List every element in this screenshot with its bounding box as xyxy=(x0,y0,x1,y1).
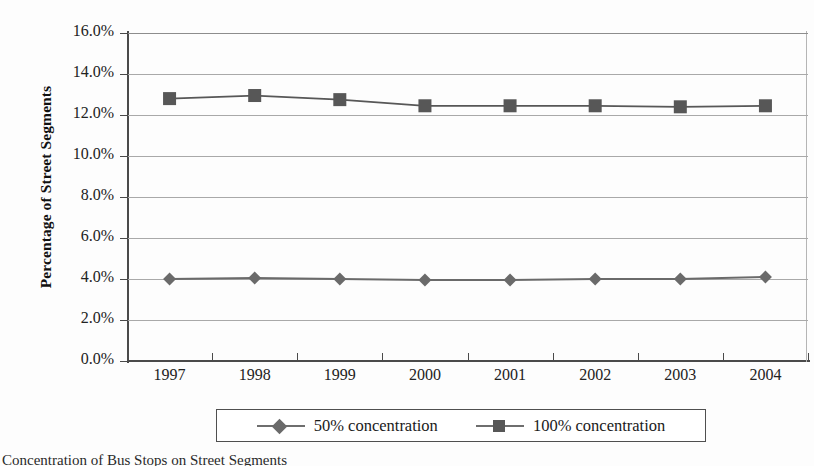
x-axis-tick-mark xyxy=(638,353,639,362)
diamond-marker-icon xyxy=(257,418,305,434)
x-axis-tick-mark xyxy=(808,353,809,362)
x-axis-tick-label: 1999 xyxy=(297,366,383,384)
y-axis-tick-mark xyxy=(120,156,128,157)
x-axis-tick-mark xyxy=(553,353,554,362)
legend-entry-100-concentration[interactable]: 100% concentration xyxy=(476,416,665,436)
x-axis-tick-mark xyxy=(212,353,213,362)
y-axis-tick-label: 14.0% xyxy=(44,63,114,81)
x-axis-tick-mark xyxy=(127,353,128,362)
y-axis-tick-mark xyxy=(120,74,128,75)
y-axis-tick-mark xyxy=(120,320,128,321)
y-axis-tick-label: 2.0% xyxy=(44,309,114,327)
x-axis-tick-mark xyxy=(723,353,724,362)
x-axis-tick-label: 2004 xyxy=(722,366,808,384)
gridline xyxy=(127,74,808,75)
y-axis-tick-mark xyxy=(120,197,128,198)
y-axis-tick-label: 8.0% xyxy=(44,186,114,204)
plot-area xyxy=(127,33,808,361)
x-axis-tick-mark xyxy=(382,353,383,362)
x-axis-tick-label: 2003 xyxy=(637,366,723,384)
chart-legend: 50% concentration 100% concentration xyxy=(216,409,706,442)
legend-entry-50-concentration[interactable]: 50% concentration xyxy=(257,416,438,436)
x-axis-tick-label: 2002 xyxy=(552,366,638,384)
square-marker-icon xyxy=(476,418,524,434)
gridline xyxy=(127,115,808,116)
y-axis-tick-mark xyxy=(120,238,128,239)
chart-figure: Percentage of Street Segments 0.0%2.0%4.… xyxy=(0,0,814,466)
y-axis-tick-mark xyxy=(120,279,128,280)
x-axis-tick-mark xyxy=(468,353,469,362)
y-axis-tick-label: 0.0% xyxy=(44,350,114,368)
gridline xyxy=(127,156,808,157)
y-axis-tick-label: 6.0% xyxy=(44,227,114,245)
x-axis-tick-label: 2000 xyxy=(382,366,468,384)
gridline xyxy=(127,320,808,321)
y-axis-tick-label: 4.0% xyxy=(44,268,114,286)
gridline xyxy=(127,197,808,198)
x-axis-tick-label: 2001 xyxy=(467,366,553,384)
y-axis-tick-label: 12.0% xyxy=(44,104,114,122)
y-axis-tick-mark xyxy=(120,115,128,116)
legend-label-50-concentration: 50% concentration xyxy=(314,416,438,436)
y-axis-tick-labels: 0.0%2.0%4.0%6.0%8.0%10.0%12.0%14.0%16.0% xyxy=(34,0,114,466)
x-axis-tick-mark xyxy=(297,353,298,362)
gridline xyxy=(127,279,808,280)
gridline xyxy=(127,238,808,239)
y-axis-tick-mark xyxy=(120,33,128,34)
y-axis-tick-label: 16.0% xyxy=(44,22,114,40)
figure-caption: Concentration of Bus Stops on Street Seg… xyxy=(2,452,702,466)
y-axis-tick-label: 10.0% xyxy=(44,145,114,163)
x-axis-tick-label: 1998 xyxy=(212,366,298,384)
legend-label-100-concentration: 100% concentration xyxy=(533,416,665,436)
x-axis-tick-label: 1997 xyxy=(127,366,213,384)
gridline xyxy=(127,33,808,34)
